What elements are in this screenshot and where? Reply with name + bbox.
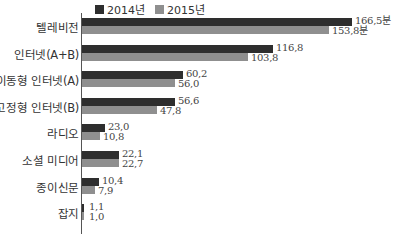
bar-2015 [82,132,100,140]
chart-row: 텔레비전166,5분153,8분 [0,16,395,42]
bar-2015 [82,159,119,167]
value-label-2015: 103,8 [251,53,278,63]
value-label-2015: 47,8 [160,106,181,116]
value-label-2015: 153,8분 [332,26,368,36]
category-label: 소셜 미디어 [22,152,79,168]
chart-row: 이동형 인터넷(A)60,256,0 [0,69,395,95]
bar-2014 [82,178,99,186]
category-label: 고정형 인터넷(B) [0,99,79,115]
bar-2014 [82,204,84,212]
chart-row: 잡지1,11,0 [0,202,395,228]
bar-2014 [82,45,273,53]
bar-2015 [82,79,175,87]
bar-2015 [82,26,329,34]
category-label: 이동형 인터넷(A) [0,72,79,88]
category-label: 종이신문 [36,179,79,195]
legend-label: 2014년 [107,1,145,17]
value-label-2015: 56,0 [178,79,199,89]
bar-2014 [82,151,119,159]
legend-item-2014: 2014년 [95,1,145,17]
category-label: 라디오 [47,125,79,141]
chart-row: 인터넷(A+B)116,8103,8 [0,43,395,69]
category-label: 인터넷(A+B) [14,46,79,62]
bar-2015 [82,212,84,220]
value-label-2015: 10,8 [103,132,124,142]
legend-swatch [155,5,164,14]
bar-2015 [82,186,95,194]
category-label: 텔레비전 [36,19,79,35]
chart-row: 고정형 인터넷(B)56,647,8 [0,96,395,122]
bar-2014 [82,18,352,26]
bar-2014 [82,124,105,132]
value-label-2015: 7,9 [98,186,113,196]
chart-legend: 2014년2015년 [95,1,205,17]
chart-row: 소셜 미디어22,122,7 [0,149,395,175]
value-label-2014: 116,8 [276,43,303,53]
chart-row: 종이신문10,47,9 [0,176,395,202]
category-label: 잡지 [58,205,79,221]
value-label-2015: 22,7 [122,159,143,169]
bar-2015 [82,106,157,114]
value-label-2014: 56,6 [178,96,199,106]
legend-swatch [95,5,104,14]
chart-row: 라디오23,010,8 [0,122,395,148]
legend-label: 2015년 [167,1,205,17]
bar-2015 [82,53,248,61]
legend-item-2015: 2015년 [155,1,205,17]
value-label-2015: 1,0 [89,212,104,222]
bar-2014 [82,71,183,79]
